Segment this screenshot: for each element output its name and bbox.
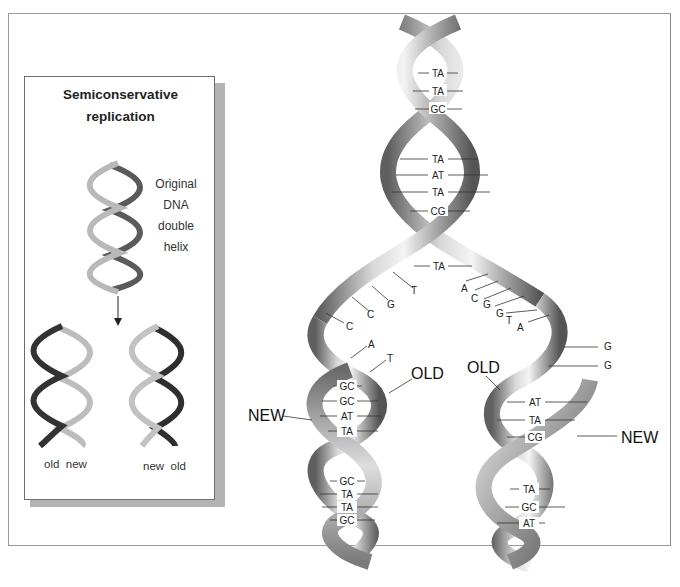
svg-text:GC: GC <box>340 381 355 392</box>
pair-1: TA <box>432 68 444 79</box>
original-helix-icon <box>90 163 141 292</box>
svg-text:GC: GC <box>340 515 355 526</box>
right-daughter-helix-icon <box>132 326 182 446</box>
pair-2: TA <box>432 86 444 97</box>
svg-text:TA: TA <box>341 489 353 500</box>
svg-text:GC: GC <box>522 502 537 513</box>
svg-text:C: C <box>346 321 353 332</box>
svg-text:T: T <box>387 353 393 364</box>
svg-text:AT: AT <box>341 411 353 422</box>
svg-text:TA: TA <box>341 426 353 437</box>
pair-8: TA <box>433 261 445 272</box>
svg-text:GC: GC <box>340 396 355 407</box>
svg-text:GC: GC <box>340 476 355 487</box>
svg-text:AT: AT <box>529 397 541 408</box>
pair-6: TA <box>432 187 444 198</box>
svg-text:AT: AT <box>523 518 535 529</box>
pair-3: GC <box>431 104 446 115</box>
svg-text:G: G <box>387 299 395 310</box>
dna-replication-diagram: TA TA GC TA AT TA CG TA T G C C A T A <box>0 0 680 587</box>
svg-text:TA: TA <box>529 415 541 426</box>
new-label-left: NEW <box>248 407 286 424</box>
svg-text:A: A <box>368 339 375 350</box>
svg-text:G: G <box>604 341 612 352</box>
svg-text:CG: CG <box>528 432 543 443</box>
left-daughter-helix-icon <box>34 326 91 446</box>
svg-text:G: G <box>483 299 491 310</box>
svg-text:C: C <box>471 293 478 304</box>
svg-text:T: T <box>506 315 512 326</box>
svg-text:T: T <box>411 285 417 296</box>
pair-7: CG <box>431 206 446 217</box>
svg-text:G: G <box>496 308 504 319</box>
new-label-right: NEW <box>621 429 659 446</box>
svg-text:C: C <box>367 309 374 320</box>
svg-text:A: A <box>461 283 468 294</box>
old-label-left: OLD <box>411 365 444 382</box>
svg-text:G: G <box>604 360 612 371</box>
pair-5: AT <box>432 170 444 181</box>
old-label-right: OLD <box>467 359 500 376</box>
down-arrow-icon <box>114 296 122 326</box>
svg-text:TA: TA <box>523 484 535 495</box>
svg-text:TA: TA <box>341 502 353 513</box>
pair-4: TA <box>432 154 444 165</box>
svg-text:A: A <box>517 322 524 333</box>
